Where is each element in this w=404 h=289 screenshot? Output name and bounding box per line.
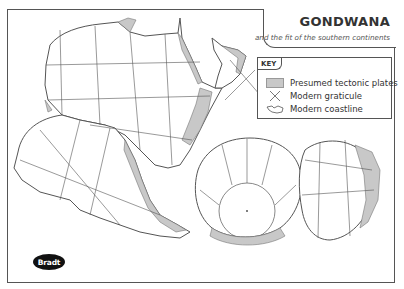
key-item-plates: Presumed tectonic plates [266,77,398,89]
bradt-logo: Bradt [33,254,65,270]
graticule-cross-icon [266,91,284,101]
plate-swatch-icon [266,78,284,88]
coastline-icon [266,104,284,114]
map-frame [7,9,395,283]
key-item-coastline: Modern coastline [266,103,363,115]
title-box: GONDWANA and the fit of the southern con… [263,9,396,48]
map-key: KEY Presumed tectonic plates Modern grat… [257,57,392,119]
key-heading: KEY [258,58,282,70]
key-item-graticule: Modern graticule [266,90,362,102]
map-title: GONDWANA [299,14,390,29]
map-subtitle: and the fit of the southern continents [255,33,390,42]
